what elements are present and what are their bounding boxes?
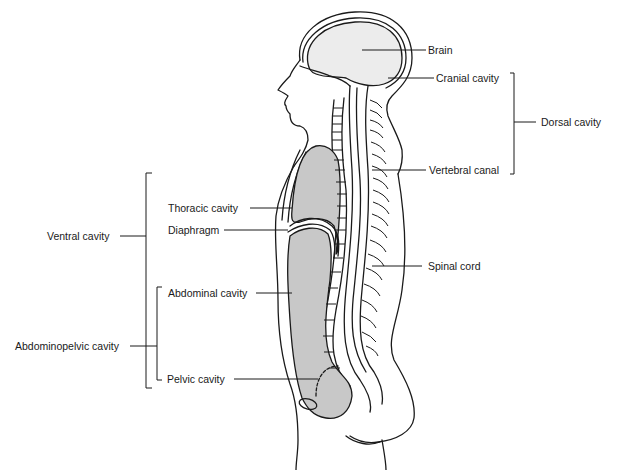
- brain-shape: [307, 22, 402, 86]
- leg-back: [382, 440, 386, 470]
- label-diaphragm: Diaphragm: [168, 224, 219, 236]
- body-cavities-diagram: Brain Cranial cavity Dorsal cavity Verte…: [0, 0, 621, 470]
- label-abdominal-cavity: Abdominal cavity: [168, 287, 247, 299]
- label-spinal-cord: Spinal cord: [428, 260, 481, 272]
- spinal-cord: [352, 88, 366, 372]
- face-profile: [278, 60, 308, 166]
- label-ventral-cavity: Ventral cavity: [47, 230, 109, 242]
- label-cranial-cavity: Cranial cavity: [436, 72, 499, 84]
- label-vertebral-canal: Vertebral canal: [429, 164, 499, 176]
- label-brain: Brain: [428, 44, 453, 56]
- label-abdominopelvic-cavity: Abdominopelvic cavity: [15, 340, 119, 352]
- label-pelvic-cavity: Pelvic cavity: [167, 373, 225, 385]
- spinous-processes: [361, 100, 389, 356]
- abdominopelvic-cavity-shape: [288, 228, 352, 418]
- label-dorsal-cavity: Dorsal cavity: [541, 116, 601, 128]
- label-thoracic-cavity: Thoracic cavity: [168, 202, 238, 214]
